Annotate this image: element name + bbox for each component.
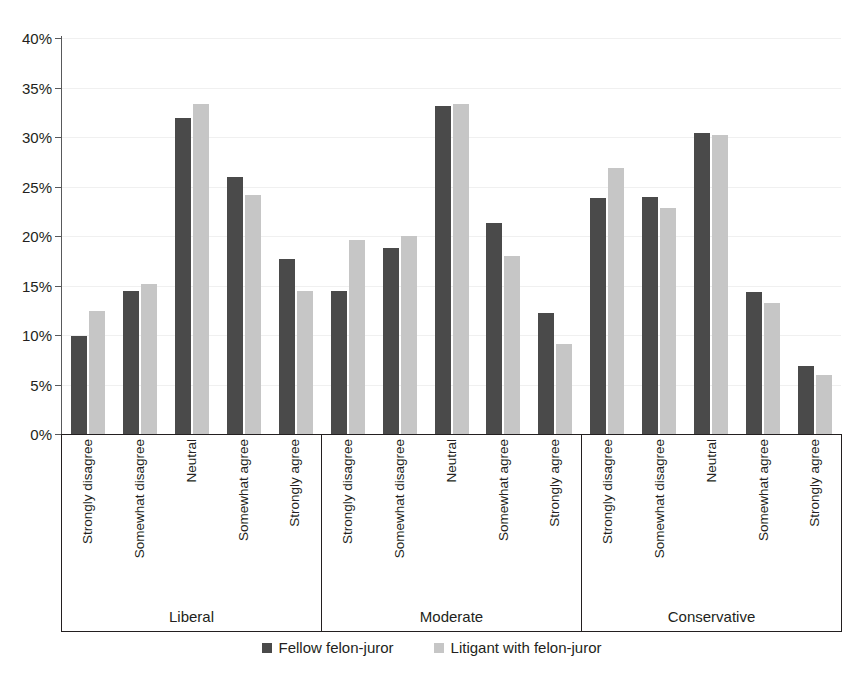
x-axis-tick-label: Somewhat agree <box>217 435 269 587</box>
bar <box>89 311 105 434</box>
y-axis-tick-label: 40% <box>4 31 52 46</box>
bar-group-moderate <box>322 38 582 434</box>
bar <box>538 313 554 434</box>
bar-pair <box>114 38 166 434</box>
bar <box>556 344 572 434</box>
bar <box>331 291 347 434</box>
bar <box>141 284 157 434</box>
bar <box>435 106 451 434</box>
x-axis-tick-label: Somewhat disagree <box>114 435 166 587</box>
bar <box>712 135 728 434</box>
bar <box>608 168 624 434</box>
x-axis-tick-label: Neutral <box>426 435 478 587</box>
bar <box>71 336 87 434</box>
x-axis-tick-label: Strongly agree <box>529 435 581 587</box>
bar-pair <box>529 38 581 434</box>
chart-legend: Fellow felon-jurorLitigant with felon-ju… <box>0 640 863 655</box>
x-axis-tick-label: Neutral <box>166 435 218 587</box>
bar-pair <box>62 38 114 434</box>
bar-pair <box>633 38 685 434</box>
x-axis-group-label: Conservative <box>582 608 841 625</box>
x-axis-group-label: Liberal <box>62 608 321 625</box>
bar <box>798 366 814 434</box>
legend-item[interactable]: Fellow felon-juror <box>262 640 394 655</box>
category-group-moderate: Strongly disagreeSomewhat disagreeNeutra… <box>322 435 582 631</box>
bar <box>694 133 710 434</box>
bar-groups <box>62 38 841 434</box>
bar-pair <box>322 38 374 434</box>
x-axis-tick-label: Somewhat disagree <box>634 435 686 587</box>
bar <box>660 208 676 434</box>
y-axis-tick-label: 10% <box>4 328 52 343</box>
bar <box>227 177 243 434</box>
legend-item[interactable]: Litigant with felon-juror <box>434 640 602 655</box>
x-axis-tick-label: Somewhat disagree <box>374 435 426 587</box>
bar <box>746 292 762 434</box>
bar <box>123 291 139 434</box>
bar-pair <box>218 38 270 434</box>
y-axis-tick-label: 5% <box>4 378 52 393</box>
bar-pair <box>581 38 633 434</box>
bar <box>349 240 365 434</box>
bar <box>401 236 417 434</box>
x-axis-tick-label: Strongly agree <box>269 435 321 587</box>
bar-pair <box>789 38 841 434</box>
bar-pair <box>374 38 426 434</box>
x-axis-tick-label: Strongly disagree <box>322 435 374 587</box>
x-axis-tick-label: Somewhat agree <box>477 435 529 587</box>
legend-swatch-icon <box>262 643 272 653</box>
legend-label: Litigant with felon-juror <box>451 640 602 655</box>
y-axis-tick-label: 30% <box>4 130 52 145</box>
bar <box>453 104 469 434</box>
x-axis-tick-label: Neutral <box>686 435 738 587</box>
y-axis-tick-label: 25% <box>4 180 52 195</box>
legend-label: Fellow felon-juror <box>279 640 394 655</box>
bar <box>175 118 191 434</box>
bar <box>193 104 209 434</box>
legend-swatch-icon <box>434 643 444 653</box>
bar-pair <box>477 38 529 434</box>
bar <box>297 291 313 434</box>
x-axis-tick-label: Strongly disagree <box>62 435 114 587</box>
bar-pair <box>270 38 322 434</box>
bar <box>764 303 780 434</box>
x-axis-tick-label: Strongly disagree <box>582 435 634 587</box>
bar-chart: 0%5%10%15%20%25%30%35%40% Strongly disag… <box>0 0 863 682</box>
x-axis-tick-label: Somewhat agree <box>737 435 789 587</box>
bar-pair <box>166 38 218 434</box>
bar <box>279 259 295 434</box>
bar-group-conservative <box>581 38 841 434</box>
x-axis-group-label: Moderate <box>322 608 581 625</box>
x-axis-tick-label: Strongly agree <box>789 435 841 587</box>
y-axis-tick-label: 15% <box>4 279 52 294</box>
bar-pair <box>426 38 478 434</box>
bar <box>486 223 502 434</box>
category-group-conservative: Strongly disagreeSomewhat disagreeNeutra… <box>582 435 842 631</box>
y-axis-tick-label: 20% <box>4 229 52 244</box>
y-axis-tick-label: 35% <box>4 81 52 96</box>
y-axis: 0%5%10%15%20%25%30%35%40% <box>0 0 52 440</box>
bar-pair <box>737 38 789 434</box>
y-axis-tick-label: 0% <box>4 427 52 442</box>
bar-group-liberal <box>62 38 322 434</box>
bar <box>245 195 261 434</box>
bar <box>590 198 606 434</box>
bar <box>504 256 520 434</box>
category-axis: Strongly disagreeSomewhat disagreeNeutra… <box>61 435 842 632</box>
bar <box>816 375 832 434</box>
bar <box>383 248 399 434</box>
category-group-liberal: Strongly disagreeSomewhat disagreeNeutra… <box>61 435 322 631</box>
bar <box>642 197 658 434</box>
bar-pair <box>685 38 737 434</box>
